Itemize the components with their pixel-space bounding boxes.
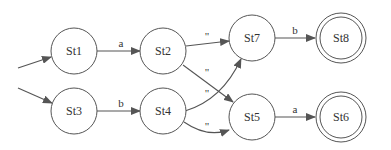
node-st4: St4 [140, 88, 186, 134]
edge-label-st1-st2: a [119, 37, 124, 49]
node-st7: St7 [229, 15, 275, 61]
edge-label-st4-st5: " [205, 120, 210, 132]
node-label: St6 [333, 110, 349, 124]
edge-label-st7-st8: b [292, 24, 298, 36]
node-st1: St1 [51, 28, 97, 74]
state-diagram: a b " " " " b a St1 St2 St3 St4 St7 [0, 0, 391, 150]
edge-label-st5-st6: a [293, 103, 298, 115]
node-label: St3 [66, 104, 82, 118]
node-label: St5 [244, 110, 260, 124]
node-st8-accepting: St8 [316, 13, 366, 63]
edge-start-st1 [18, 57, 51, 68]
edge-label-st2-st7: " [205, 30, 210, 42]
node-st3: St3 [51, 88, 97, 134]
node-label: St2 [155, 44, 171, 58]
node-st2: St2 [140, 28, 186, 74]
edge-st4-st7 [185, 59, 241, 111]
edge-label-st2-st5: " [205, 66, 210, 78]
node-label: St4 [155, 104, 171, 118]
node-label: St1 [66, 44, 82, 58]
edge-start-st3 [18, 88, 52, 103]
edge-label-st4-st7: " [205, 87, 210, 99]
node-st5: St5 [229, 94, 275, 140]
node-st6-accepting: St6 [316, 92, 366, 142]
node-label: St8 [333, 31, 349, 45]
node-label: St7 [244, 31, 260, 45]
edge-label-st3-st4: b [118, 97, 124, 109]
